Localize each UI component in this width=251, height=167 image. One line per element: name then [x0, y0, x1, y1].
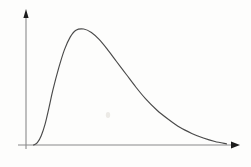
arrow-up-icon: [23, 9, 28, 18]
figure-container: [0, 0, 251, 167]
background-speck: [106, 112, 110, 118]
arrow-right-icon: [231, 141, 240, 148]
distribution-curve: [34, 29, 227, 145]
distribution-curve-chart: [0, 0, 251, 167]
